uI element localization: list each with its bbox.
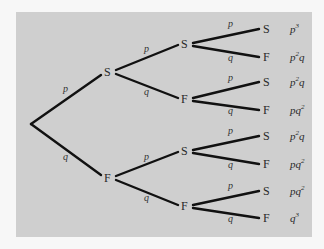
node-s: S (181, 37, 188, 51)
edge-label: p (227, 72, 233, 83)
node-s: S (104, 65, 111, 79)
edge-label: p (62, 83, 68, 94)
node-s: S (263, 22, 270, 36)
outcome-probability: pq2 (289, 157, 305, 170)
node-f: F (263, 157, 270, 171)
node-f: F (263, 103, 270, 117)
node-s: S (263, 75, 270, 89)
edge-label: q (144, 192, 149, 203)
edge-label: p (143, 43, 149, 54)
node-s: S (263, 129, 270, 143)
probability-tree: SpFqSpFqSpFqSpp3Fqp2qSpp2qFqpq2Spp2qFqpq… (0, 0, 324, 249)
outcome-probability: pq2 (289, 184, 305, 197)
edge-label: p (143, 151, 149, 162)
node-f: F (181, 199, 188, 213)
outcome-probability: pq2 (289, 103, 305, 116)
branch-edge (193, 101, 259, 110)
node-f: F (104, 171, 111, 185)
edge-label: q (228, 213, 233, 224)
edge-label: p (227, 18, 233, 29)
branch-edge (193, 82, 259, 98)
edge-label: q (63, 151, 68, 162)
edge-label: p (227, 125, 233, 136)
node-f: F (181, 92, 188, 106)
node-f: F (263, 211, 270, 225)
edge-label: p (227, 180, 233, 191)
outcome-probability: p2q (289, 50, 305, 63)
node-f: F (263, 50, 270, 64)
branch-edge (193, 153, 259, 164)
node-s: S (181, 144, 188, 158)
outcome-probability: p3 (289, 22, 300, 35)
outcome-probability: p2q (289, 129, 305, 142)
branch-edge (193, 46, 259, 57)
edge-label: q (228, 105, 233, 116)
outcome-probability: p2q (289, 75, 305, 88)
edge-label: q (228, 52, 233, 63)
edge-label: q (144, 86, 149, 97)
edge-label: q (228, 159, 233, 170)
node-s: S (263, 184, 270, 198)
branch-edge (193, 29, 259, 43)
branch-edge (193, 136, 259, 150)
branch-edge (193, 208, 259, 218)
branch-edge (31, 124, 101, 175)
branch-edge (193, 191, 259, 205)
outcome-probability: q3 (290, 211, 300, 224)
